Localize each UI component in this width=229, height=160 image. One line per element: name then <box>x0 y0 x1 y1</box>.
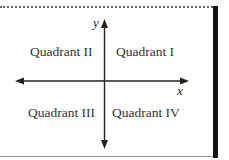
x-axis-left-arrow-icon <box>15 78 24 85</box>
y-axis-up-arrow-icon <box>101 19 108 28</box>
quadrant-iii-label: Quadrant III <box>28 105 95 121</box>
x-axis-label: x <box>177 84 183 97</box>
quadrant-ii-label: Quadrant II <box>30 44 93 60</box>
quadrant-i-label: Quadrant I <box>116 44 174 60</box>
y-axis-label: y <box>93 16 99 29</box>
quadrant-iv-label: Quadrant IV <box>112 105 180 121</box>
y-axis-down-arrow-icon <box>101 140 108 149</box>
y-axis <box>101 19 108 149</box>
coordinate-axes <box>0 0 229 160</box>
x-axis <box>15 78 189 85</box>
